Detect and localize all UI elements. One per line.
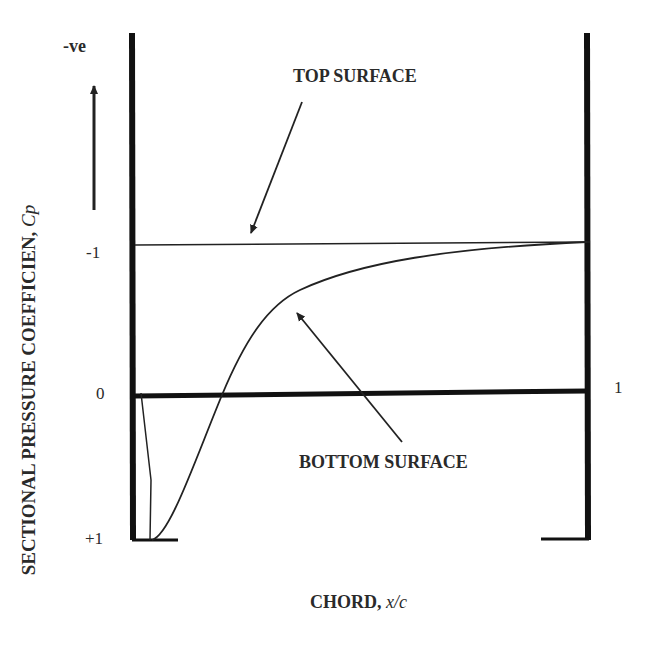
tick-x-1: 1 [614,378,623,398]
x-axis-label-var: x/c [386,592,407,612]
bottom-surface-arrow-icon [297,313,402,442]
left-axis [132,33,133,540]
negative-direction-label: -ve [63,36,86,57]
top-surface-arrow-icon [251,102,302,233]
y-axis-label: SECTIONAL PRESSURE COEFFICIEN, Cp [18,205,40,576]
y-axis-label-var: Cp [18,205,39,227]
cp-diagram [0,0,654,646]
right-axis [587,33,588,540]
x-axis-label-main: CHORD, [310,592,386,612]
bottom-surface-label: BOTTOM SURFACE [299,452,468,473]
tick-minus-1: -1 [86,243,100,263]
top-surface-label: TOP SURFACE [293,66,417,87]
x-axis-label: CHORD, x/c [310,592,407,613]
tick-plus-1: +1 [85,529,103,549]
tick-zero: 0 [96,384,105,404]
y-axis-label-main: SECTIONAL PRESSURE COEFFICIEN, [18,227,39,575]
leading-edge-curve [141,393,151,540]
top-surface-line [135,242,590,245]
